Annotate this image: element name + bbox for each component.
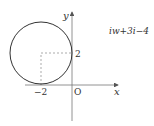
y-tick-label: 2 xyxy=(75,49,81,59)
expression-label: iw+3i−4 xyxy=(109,26,149,36)
x-tick-label: −2 xyxy=(34,87,47,97)
complex-plane-diagram: y x O 2 −2 iw+3i−4 xyxy=(0,0,154,126)
origin-label: O xyxy=(74,87,81,97)
y-axis-label: y xyxy=(62,10,69,21)
x-axis-label: x xyxy=(114,86,120,97)
